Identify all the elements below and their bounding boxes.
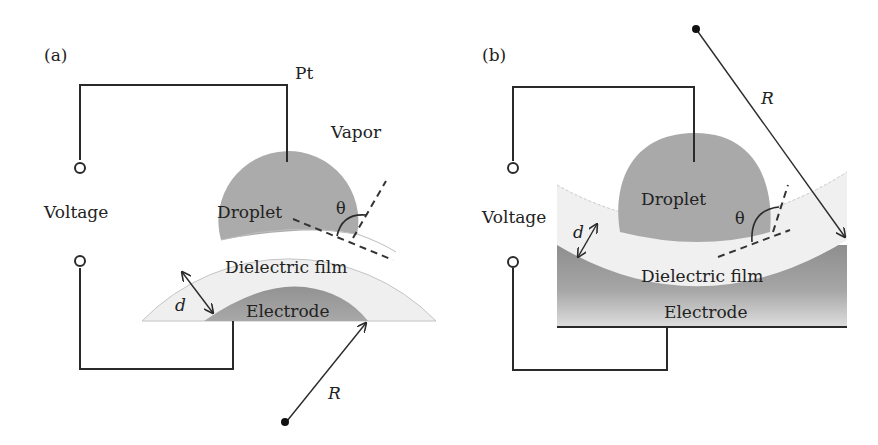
- thickness-label-b: d: [573, 222, 584, 242]
- vapor-label: Vapor: [330, 122, 382, 142]
- thickness-label-a: d: [175, 295, 186, 315]
- dielectric-label-b: Dielectric film: [641, 266, 763, 286]
- voltage-label-a: Voltage: [43, 202, 108, 222]
- dielectric-label-a: Dielectric film: [225, 257, 347, 277]
- electrode-label-a: Electrode: [246, 301, 330, 321]
- panel-a-label: (a): [44, 45, 67, 65]
- terminal-bottom-a: [75, 256, 85, 266]
- radius-label-b: R: [760, 88, 774, 108]
- panel-b-label: (b): [482, 45, 506, 65]
- radius-center-b: [692, 25, 700, 33]
- wire-top-a: [80, 85, 287, 162]
- voltage-label-b: Voltage: [481, 207, 546, 227]
- terminal-top-a: [75, 163, 85, 173]
- terminal-bottom-b: [508, 257, 518, 267]
- radius-label-a: R: [327, 383, 341, 403]
- theta-label-a: θ: [336, 199, 346, 218]
- contact-line-a: [353, 181, 386, 238]
- droplet-a: [218, 151, 358, 240]
- theta-label-b: θ: [735, 209, 745, 228]
- pt-label: Pt: [295, 63, 313, 83]
- panel-b: (b) Voltage Droplet θ Dielectric film El…: [481, 25, 847, 370]
- droplet-label-a: Droplet: [217, 202, 282, 222]
- electrode-label-b: Electrode: [664, 302, 748, 322]
- radius-arrow-a: [287, 323, 366, 421]
- terminal-top-b: [508, 163, 518, 173]
- radius-center-a: [281, 418, 289, 426]
- figure-canvas: (a) Pt Vapor Voltage Droplet θ Dielectri…: [0, 0, 878, 445]
- panel-a: (a) Pt Vapor Voltage Droplet θ Dielectri…: [43, 45, 436, 426]
- droplet-label-b: Droplet: [641, 189, 706, 209]
